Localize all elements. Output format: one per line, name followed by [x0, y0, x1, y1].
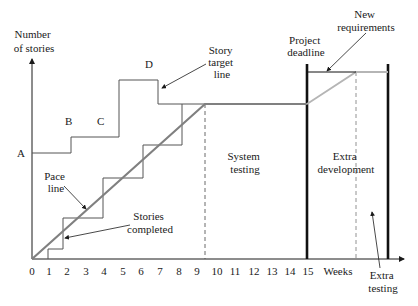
x-tick: 10	[212, 265, 224, 277]
pace-line-arrow	[64, 186, 86, 209]
stories-completed-label: Stories completed	[127, 210, 173, 235]
new-requirements-arrow	[327, 33, 366, 71]
label-c: C	[97, 115, 104, 127]
pace-line-label: Pace line	[44, 170, 68, 194]
x-tick: 2	[64, 265, 70, 277]
x-tick: 13	[267, 265, 279, 277]
extra-testing-arrow	[372, 212, 380, 268]
stories-completed-line	[48, 104, 182, 259]
project-deadline-label: Project deadline	[287, 34, 324, 58]
label-d: D	[145, 58, 153, 70]
story-target-arrow	[162, 64, 206, 88]
x-tick: 14	[285, 265, 297, 277]
extended-pace-line	[307, 72, 388, 104]
x-tick: 11	[230, 265, 241, 277]
x-tick: 9	[194, 265, 200, 277]
system-testing-label: System testing	[227, 150, 262, 175]
story-target-line	[32, 80, 205, 153]
new-requirements-label: New requirements	[337, 8, 394, 33]
x-tick: 5	[120, 265, 126, 277]
extra-development-label: Extra development	[318, 150, 375, 175]
label-b: B	[65, 115, 72, 127]
y-axis-label: Number of stories	[14, 28, 55, 54]
x-tick: 1	[46, 265, 52, 277]
x-tick: 3	[83, 265, 89, 277]
x-tick: 15	[303, 265, 315, 277]
x-tick: 0	[29, 265, 35, 277]
label-a: A	[17, 147, 25, 159]
x-tick: 7	[157, 265, 163, 277]
stories-completed-arrow	[65, 225, 130, 238]
x-tick: 4	[101, 265, 107, 277]
pace-line	[32, 104, 307, 259]
story-target-label: Story target line	[208, 44, 236, 80]
chart-canvas: Number of stories A B C D Story target l…	[0, 0, 418, 306]
x-tick: 6	[138, 265, 144, 277]
x-tick: 8	[176, 265, 182, 277]
x-axis-label: Weeks	[323, 265, 352, 277]
extra-testing-label: Extra testing	[368, 269, 398, 294]
x-tick-labels: 0 1 2 3 4 5 6 7 8 9 10 11 12 13 14 15 We…	[29, 265, 352, 277]
x-tick: 12	[249, 265, 260, 277]
